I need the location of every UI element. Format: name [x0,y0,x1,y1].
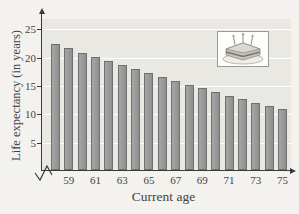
bar-age-58 [51,44,60,170]
x-axis-line [41,170,291,171]
life-expectancy-bar-chart: 510152025 596163656769717375 Current age… [0,0,299,214]
y-axis-arrow-icon [39,8,45,14]
y-tick-10 [37,114,42,115]
bar-age-67 [171,81,180,170]
x-tick-label-71: 71 [218,175,240,186]
bar-age-62 [104,61,113,170]
bar-age-69 [198,88,207,170]
x-tick-label-67: 67 [165,175,187,186]
y-tick-25 [37,29,42,30]
bar-age-61 [91,57,100,170]
birthday-cake-icon [218,32,268,66]
bar-age-75 [278,109,287,170]
bar-age-66 [158,77,167,170]
bar-age-63 [118,65,127,170]
bar-age-72 [238,99,247,170]
x-axis-arrow-icon [290,168,296,174]
bar-age-74 [265,106,274,170]
bar-age-68 [185,85,194,170]
x-axis-break-icon [33,163,59,183]
bar-age-71 [225,96,234,170]
y-tick-15 [37,86,42,87]
x-tick-label-69: 69 [191,175,213,186]
bar-age-73 [251,103,260,170]
bar-age-60 [78,53,87,170]
x-tick-label-63: 63 [111,175,133,186]
x-axis-title: Current age [96,189,231,205]
y-axis-title: Life expectancy (in years) [9,16,24,176]
bar-age-65 [144,73,153,170]
x-tick-label-65: 65 [138,175,160,186]
bar-age-64 [131,69,140,170]
bar-age-70 [211,92,220,170]
x-tick-label-75: 75 [271,175,293,186]
y-tick-20 [37,58,42,59]
y-tick-5 [37,143,42,144]
x-tick-label-59: 59 [58,175,80,186]
x-tick-label-61: 61 [85,175,107,186]
inset-image-frame [217,31,269,67]
y-axis-line [41,13,42,171]
x-tick-label-73: 73 [245,175,267,186]
bar-age-59 [64,48,73,170]
